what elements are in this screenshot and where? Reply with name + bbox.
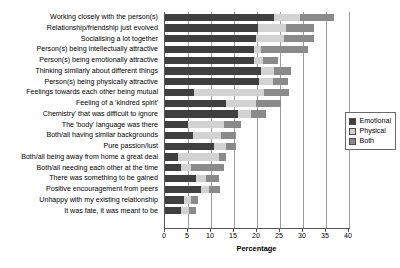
bar-row [165, 44, 349, 55]
bar-segment-emotional [165, 132, 193, 139]
bar-segment-physical [254, 46, 261, 53]
category-label: Feelings towards each other being mutual [0, 87, 162, 98]
bar-segment-physical [196, 175, 206, 182]
bar-segment-emotional [165, 24, 258, 31]
bar-segment-both [221, 132, 236, 139]
legend-swatch-icon [349, 128, 356, 135]
bar-segment-both [300, 14, 334, 21]
bar-row [165, 98, 349, 109]
legend-label: Physical [359, 127, 385, 135]
stacked-bar [165, 186, 220, 193]
stacked-bar [165, 175, 219, 182]
category-label: Thinking similarly about different thing… [0, 66, 162, 77]
bar-segment-physical [188, 121, 225, 128]
legend-item: Physical [349, 126, 391, 136]
bar-segment-physical [214, 143, 226, 150]
bar-row [165, 23, 349, 34]
legend-item: Emotional [349, 116, 391, 126]
bar-row [165, 184, 349, 195]
bar-segment-emotional [165, 207, 181, 214]
x-tick-label: 20 [252, 232, 260, 240]
bar-segment-physical [261, 67, 274, 74]
category-label: Positive encouragement from peers [0, 184, 162, 195]
x-axis-title: Percentage [164, 244, 349, 253]
bar-segment-both [263, 57, 278, 64]
x-tick-label: 25 [275, 232, 283, 240]
stacked-bar [165, 14, 334, 21]
category-label: Person(s) being physically attractive [0, 77, 162, 88]
x-tick-label: 30 [298, 232, 306, 240]
bar-row [165, 173, 349, 184]
stacked-bar [165, 35, 314, 42]
category-label: Both/all needing each other at the time [0, 163, 162, 174]
bar-segment-physical [274, 14, 300, 21]
stacked-bar [165, 196, 198, 203]
stacked-bar [165, 207, 196, 214]
stacked-bar [165, 89, 289, 96]
bar-segment-emotional [165, 164, 181, 171]
bar-segment-emotional [165, 121, 188, 128]
bar-segment-emotional [165, 100, 226, 107]
category-label: Chemistry' that was difficult to ignore [0, 109, 162, 120]
legend-label: Emotional [359, 117, 391, 125]
bar-segment-both [224, 121, 241, 128]
stacked-bar [165, 78, 288, 85]
bar-segment-emotional [165, 143, 214, 150]
bars-container [165, 12, 349, 229]
stacked-bar [165, 121, 241, 128]
category-label: Person(s) being emotionally attractive [0, 55, 162, 66]
horizontal-stacked-bar-chart: Working closely with the person(s)Relati… [0, 0, 400, 268]
category-label: It was fate, it was meant to be [0, 206, 162, 217]
bar-segment-physical [254, 57, 263, 64]
category-label: Unhappy with my existing relationship [0, 195, 162, 206]
bar-segment-physical [181, 207, 189, 214]
stacked-bar [165, 132, 236, 139]
bar-segment-physical [258, 24, 286, 31]
bar-segment-emotional [165, 57, 254, 64]
bar-segment-both [251, 110, 266, 117]
stacked-bar [165, 110, 266, 117]
bar-row [165, 195, 349, 206]
bar-segment-physical [194, 89, 264, 96]
bar-row [165, 55, 349, 66]
bar-segment-physical [201, 186, 209, 193]
category-label: Pure passion/lust [0, 141, 162, 152]
legend-item: Both [349, 136, 391, 146]
bar-row [165, 77, 349, 88]
bar-segment-emotional [165, 89, 194, 96]
bar-segment-both [274, 67, 291, 74]
bar-segment-both [226, 143, 236, 150]
category-label: There was something to be gained [0, 173, 162, 184]
bar-segment-physical [184, 196, 191, 203]
x-tick-label: 0 [162, 232, 166, 240]
x-axis-ticks: 0510152025303540 [164, 229, 349, 241]
bar-segment-both [206, 175, 219, 182]
bar-segment-emotional [165, 67, 261, 74]
stacked-bar [165, 57, 278, 64]
x-tick-label: 35 [321, 232, 329, 240]
bar-segment-physical [181, 164, 191, 171]
category-label: Working closely with the person(s) [0, 12, 162, 23]
bar-row [165, 152, 349, 163]
bar-segment-emotional [165, 153, 178, 160]
bar-row [165, 141, 349, 152]
plot-area [164, 12, 349, 229]
bar-row [165, 87, 349, 98]
x-tick-label: 10 [206, 232, 214, 240]
bar-segment-physical [226, 100, 256, 107]
stacked-bar [165, 24, 314, 31]
bar-segment-emotional [165, 196, 184, 203]
x-tick-label: 40 [344, 232, 352, 240]
bar-segment-both [284, 35, 314, 42]
stacked-bar [165, 143, 236, 150]
bar-segment-both [191, 196, 198, 203]
category-label: Socialising a lot together [0, 34, 162, 45]
bar-segment-both [189, 207, 195, 214]
bar-row [165, 66, 349, 77]
category-label: Both/all having similar backgrounds [0, 130, 162, 141]
bar-segment-physical [256, 35, 284, 42]
x-tick-label: 5 [185, 232, 189, 240]
bar-row [165, 34, 349, 45]
stacked-bar [165, 46, 308, 53]
legend-label: Both [359, 137, 374, 145]
